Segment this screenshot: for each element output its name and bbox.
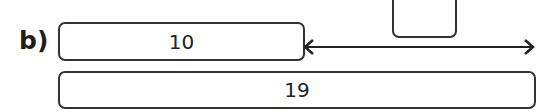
bar-bottom-value: 19 [284, 78, 309, 102]
bar-top-value: 10 [169, 30, 194, 54]
part-label: b) [19, 26, 48, 56]
unknown-box [392, 0, 457, 38]
bar-bottom: 19 [58, 71, 536, 109]
double-arrow-icon [300, 37, 540, 57]
bar-top: 10 [58, 22, 305, 61]
